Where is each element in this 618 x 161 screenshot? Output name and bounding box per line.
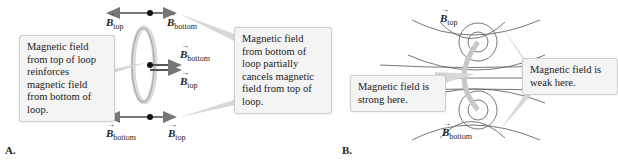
callout-weak: Magnetic field is weak here. [522, 58, 618, 95]
vector-label-b-bottom: →Bbottom [106, 127, 136, 142]
vector-label-b-bottom: →Bbottom [442, 126, 472, 141]
panel-label-b: B. [342, 144, 352, 156]
callout-strong: Magnetic field is strong here. [350, 75, 446, 112]
callout-cancels: Magnetic field from bottom of loop parti… [234, 27, 332, 114]
vector-label-b-top: →Btop [180, 75, 198, 90]
vector-label-b-top: →Btop [106, 16, 124, 31]
vector-label-b-top: →Btop [440, 12, 458, 27]
panel-label-a: A. [5, 144, 16, 156]
vector-label-b-bottom: →Bbottom [167, 16, 197, 31]
vector-label-b-bottom: →Bbottom [180, 48, 210, 63]
callout-reinforces: Magnetic field from top of loop reinforc… [19, 35, 115, 122]
vector-label-b-top: →Btop [168, 127, 186, 142]
